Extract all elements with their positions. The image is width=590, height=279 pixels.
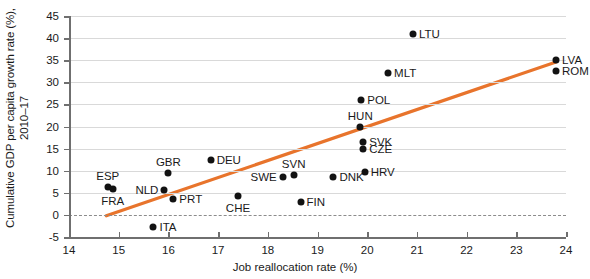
x-tick-label: 18 bbox=[253, 244, 283, 256]
gridline bbox=[69, 149, 566, 150]
zero-reference-line bbox=[69, 215, 566, 216]
x-tick-label: 15 bbox=[104, 244, 134, 256]
y-tick-label: 0 bbox=[33, 209, 59, 221]
data-point-fra[interactable] bbox=[109, 185, 116, 192]
gridline bbox=[69, 82, 566, 83]
gridline bbox=[69, 104, 566, 105]
data-point-ita[interactable] bbox=[150, 224, 157, 231]
data-point-ltu[interactable] bbox=[409, 30, 416, 37]
y-tick-label: 45 bbox=[33, 10, 59, 22]
x-tick-label: 20 bbox=[352, 244, 382, 256]
x-tickmark bbox=[367, 232, 369, 237]
data-point-label-svn: SVN bbox=[282, 158, 306, 170]
data-point-label-fin: FIN bbox=[307, 196, 326, 208]
x-tick-label: 16 bbox=[153, 244, 183, 256]
data-point-prt[interactable] bbox=[170, 195, 177, 202]
data-point-label-fra: FRA bbox=[101, 195, 124, 207]
x-tick-label: 14 bbox=[54, 244, 84, 256]
data-point-svn[interactable] bbox=[290, 172, 297, 179]
gridline bbox=[69, 171, 566, 172]
data-point-label-gbr: GBR bbox=[156, 156, 181, 168]
plot-area: ESPFRAITANLDGBRPRTDEUCHESWESVNFINDNKHRVC… bbox=[0, 0, 590, 279]
y-tick-label: 25 bbox=[33, 98, 59, 110]
gridline bbox=[69, 38, 566, 39]
data-point-nld[interactable] bbox=[161, 186, 168, 193]
y-tick-label: 10 bbox=[33, 165, 59, 177]
x-tick-label: 23 bbox=[501, 244, 531, 256]
data-point-deu[interactable] bbox=[207, 156, 214, 163]
data-point-label-deu: DEU bbox=[217, 154, 241, 166]
data-point-pol[interactable] bbox=[358, 96, 365, 103]
data-point-cze[interactable] bbox=[360, 145, 367, 152]
data-point-label-rom: ROM bbox=[562, 65, 589, 77]
data-point-label-ita: ITA bbox=[159, 221, 176, 233]
y-tick-label: -5 bbox=[33, 231, 59, 243]
gridline bbox=[69, 60, 566, 61]
data-point-label-pol: POL bbox=[367, 94, 390, 106]
scatter-chart-figure: Cumulative GDP per capita growth rate (%… bbox=[0, 0, 590, 279]
y-tick-label: 30 bbox=[33, 76, 59, 88]
gridline bbox=[69, 127, 566, 128]
data-point-hun[interactable] bbox=[357, 123, 364, 130]
data-point-rom[interactable] bbox=[553, 68, 560, 75]
data-point-label-esp: ESP bbox=[96, 170, 119, 182]
x-tick-label: 22 bbox=[452, 244, 482, 256]
data-point-label-hun: HUN bbox=[348, 110, 373, 122]
data-point-label-mlt: MLT bbox=[394, 67, 416, 79]
data-point-label-hrv: HRV bbox=[371, 166, 395, 178]
x-tick-label: 21 bbox=[402, 244, 432, 256]
data-point-hrv[interactable] bbox=[361, 168, 368, 175]
x-tick-label: 24 bbox=[551, 244, 581, 256]
y-tick-label: 20 bbox=[33, 121, 59, 133]
data-point-lva[interactable] bbox=[553, 57, 560, 64]
y-tick-label: 35 bbox=[33, 54, 59, 66]
x-tickmark bbox=[69, 232, 71, 237]
x-tickmark bbox=[566, 232, 568, 237]
gridline bbox=[69, 16, 566, 17]
data-point-fin[interactable] bbox=[297, 198, 304, 205]
x-tickmark bbox=[467, 232, 469, 237]
x-tickmark bbox=[119, 232, 121, 237]
data-point-che[interactable] bbox=[234, 193, 241, 200]
x-tickmark bbox=[516, 232, 518, 237]
data-point-label-che: CHE bbox=[226, 202, 250, 214]
data-point-svk[interactable] bbox=[360, 138, 367, 145]
x-axis-line bbox=[69, 237, 566, 239]
data-point-label-nld: NLD bbox=[135, 184, 158, 196]
x-tickmark bbox=[268, 232, 270, 237]
x-tick-label: 19 bbox=[303, 244, 333, 256]
x-tickmark bbox=[318, 232, 320, 237]
data-point-label-swe: SWE bbox=[251, 171, 277, 183]
data-point-label-prt: PRT bbox=[179, 193, 202, 205]
x-tickmark bbox=[417, 232, 419, 237]
data-point-label-svk: SVK bbox=[369, 136, 392, 148]
data-point-label-ltu: LTU bbox=[419, 28, 440, 40]
x-tick-label: 17 bbox=[203, 244, 233, 256]
y-tick-label: 40 bbox=[33, 32, 59, 44]
data-point-swe[interactable] bbox=[279, 174, 286, 181]
data-point-mlt[interactable] bbox=[385, 70, 392, 77]
data-point-dnk[interactable] bbox=[330, 174, 337, 181]
y-tick-label: 5 bbox=[33, 187, 59, 199]
data-point-label-dnk: DNK bbox=[339, 171, 363, 183]
data-point-gbr[interactable] bbox=[165, 169, 172, 176]
y-tick-label: 15 bbox=[33, 143, 59, 155]
x-tickmark bbox=[218, 232, 220, 237]
y-axis-line bbox=[69, 16, 71, 237]
